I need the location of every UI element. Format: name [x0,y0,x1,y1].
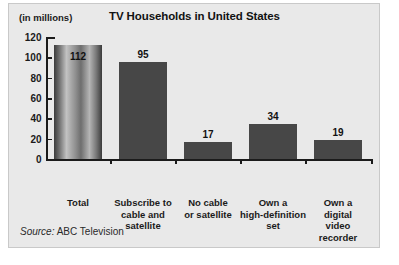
x-tick-3 [240,160,242,164]
y-tick-20: 20 [46,139,52,141]
bar-value-subscribe-cable-satellite: 95 [137,49,148,60]
bar-value-own-digital-video-recorder: 19 [332,127,343,138]
source-prefix: Source: [20,226,54,237]
chart-figure: (in millions) TV Households in United St… [8,3,380,248]
bar-value-total: 112 [70,51,86,62]
category-line: recorder [298,232,378,244]
y-tick-120: 120 [46,37,55,39]
category-line: Own a [298,197,378,209]
x-axis-line [46,159,373,161]
source-note: Source: ABC Television [20,226,124,237]
y-tick-label-20: 20 [30,133,41,144]
x-tick-5 [371,160,373,164]
x-tick-1 [110,160,112,164]
x-tick-4 [305,160,307,164]
category-line: digital [298,209,378,221]
y-tick-label-120: 120 [25,32,42,43]
bar-value-no-cable-or-satellite: 17 [202,129,213,140]
chart-title: TV Households in United States [109,10,280,22]
bar-no-cable-or-satellite[interactable]: 17 [184,142,232,159]
source-text: ABC Television [57,226,124,237]
category-line: video [298,220,378,232]
y-tick-0: 0 [46,159,52,161]
bar-own-digital-video-recorder[interactable]: 19 [314,140,362,159]
plot-area: 120 100 80 60 40 20 0 112 95 [46,37,373,159]
y-tick-100: 100 [46,57,52,59]
y-tick-80: 80 [46,78,52,80]
bar-value-own-high-definition-set: 34 [267,111,278,122]
y-tick-label-40: 40 [30,113,41,124]
y-tick-40: 40 [46,118,52,120]
y-tick-label-60: 60 [30,93,41,104]
x-tick-2 [175,160,177,164]
y-tick-label-0: 0 [36,154,42,165]
y-tick-label-80: 80 [30,72,41,83]
bar-total[interactable]: 112 [54,45,102,159]
y-tick-60: 60 [46,98,52,100]
y-tick-label-100: 100 [25,52,42,63]
bar-own-high-definition-set[interactable]: 34 [249,124,297,159]
y-axis-units-label: (in millions) [19,12,72,23]
x-category-label-own-digital-video-recorder: Own a digital video recorder [298,197,378,243]
bar-subscribe-cable-satellite[interactable]: 95 [119,62,167,159]
